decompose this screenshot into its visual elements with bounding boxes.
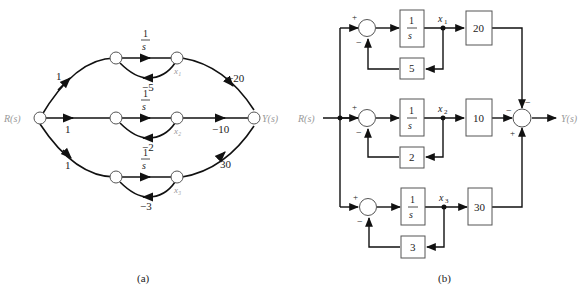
svg-text:s: s [408,120,412,131]
svg-text:s: s [142,101,146,112]
bd-output-label: Y(s) [561,113,578,125]
output-sum-top-sign: − [525,97,531,108]
svg-text:x₃: x₃ [173,185,181,195]
svg-text:2: 2 [444,108,448,116]
branch1-feedback-edge [120,63,175,78]
branch2-input-gain: 1 [65,123,71,135]
output-gain-2: 10 [473,112,485,124]
branch3-feedback-gain: −3 [140,200,152,212]
svg-text:x: x [437,13,443,24]
branch3-input-edge [40,124,115,177]
sfg-output-label: Y(s) [262,113,279,125]
output-gain-1: 20 [473,22,485,34]
svg-text:x₂: x₂ [173,126,181,136]
branch1-output-gain: −20 [227,72,245,84]
sum-junction-1 [359,20,376,37]
output-sum-junction [513,109,531,127]
svg-text:x: x [438,192,444,203]
svg-text:1: 1 [409,15,414,26]
svg-text:−: − [356,37,362,48]
branch2-feedback-edge [120,123,175,138]
feedback-gain-3: 3 [410,241,416,253]
svg-text:1: 1 [410,194,415,205]
output-gain-3: 30 [474,201,486,213]
node-x1 [171,52,183,64]
branch3-output-gain: 30 [220,158,232,170]
caption-a: (a) [137,272,150,285]
svg-text:s: s [142,41,146,52]
feedback-gain-1: 5 [409,62,415,74]
node-x3 [171,171,183,183]
caption-b: (b) [438,272,451,285]
branch2-feedback-gain: −2 [142,141,154,153]
node-output [248,112,260,124]
output-sum-left-sign: − [506,105,512,116]
node-input [34,112,46,124]
branch1-output-edge [182,58,254,110]
diagram-canvas: R(s) Y(s) 1 1 1 1 s 1 s 1 s −5 −2 −3 x₁ … [0,0,585,295]
node-3a [110,171,122,183]
signal-flow-labels: R(s) Y(s) 1 1 1 1 s 1 s 1 s −5 −2 −3 x₁ … [3,28,279,285]
branch2-output-gain: −10 [212,123,230,135]
svg-text:1: 1 [409,105,414,116]
svg-text:1: 1 [143,28,148,39]
branch1-input-edge [40,58,115,118]
branch1-feedback-gain: −5 [142,81,154,93]
svg-text:+: + [352,12,357,22]
svg-text:3: 3 [445,197,449,205]
branch1-input-gain: 1 [56,70,62,82]
svg-text:x: x [437,103,443,114]
sum-junction-3 [360,199,377,216]
svg-text:1: 1 [444,18,448,26]
blocks [400,10,492,258]
svg-text:+: + [352,102,357,112]
node-x2 [171,112,183,124]
svg-text:s: s [142,160,146,171]
svg-text:+: + [353,192,358,202]
sum-junction-2 [359,110,376,127]
svg-text:s: s [409,209,413,220]
block-labels: R(s) Y(s) 1 s 1 s 1 s x 1 x 2 x 3 20 10 … [297,12,578,285]
node-1a [110,52,122,64]
svg-text:x₁: x₁ [173,66,181,76]
node-2a [110,112,122,124]
sfg-input-label: R(s) [3,113,21,125]
svg-text:s: s [408,30,412,41]
svg-text:−: − [357,216,363,227]
branch3-input-gain: 1 [65,159,71,171]
feedback-gain-2: 2 [409,151,415,163]
branch3-feedback-edge [120,182,175,197]
output-sum-bottom-sign: + [510,128,515,138]
bd-input-label: R(s) [297,113,315,125]
svg-text:−: − [356,127,362,138]
